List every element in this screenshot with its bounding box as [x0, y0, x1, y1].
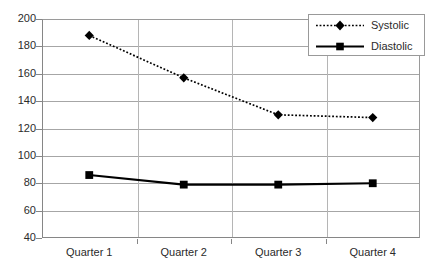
legend-item-diastolic: Diastolic	[309, 36, 426, 57]
y-tick-mark-120	[36, 129, 42, 130]
gridline-x-2	[232, 20, 233, 237]
y-tick-label-60: 60	[4, 205, 36, 216]
y-tick-mark-100	[36, 156, 42, 157]
y-tick-label-120: 120	[4, 123, 36, 134]
y-tick-mark-160	[36, 74, 42, 75]
x-tick-mark-3	[326, 239, 327, 244]
y-tick-label-160: 160	[4, 68, 36, 79]
x-tick-mark-2	[231, 239, 232, 244]
gridline-x-1	[138, 20, 139, 237]
gridline-y-100	[43, 156, 419, 157]
x-tick-label-3: Quarter 3	[231, 246, 326, 258]
gridline-y-160	[43, 74, 419, 75]
legend-label-diastolic: Diastolic	[371, 40, 413, 53]
legend-label-systolic: Systolic	[371, 19, 409, 32]
y-tick-label-200: 200	[4, 13, 36, 24]
x-tick-label-1: Quarter 1	[42, 246, 137, 258]
y-tick-mark-200	[36, 19, 42, 20]
y-tick-label-40: 40	[4, 232, 36, 243]
y-tick-label-140: 140	[4, 95, 36, 106]
gridline-y-120	[43, 129, 419, 130]
y-tick-label-180: 180	[4, 40, 36, 51]
y-tick-mark-140	[36, 101, 42, 102]
y-axis: 200180160140120100806040	[0, 0, 36, 273]
legend-item-systolic: Systolic	[309, 15, 426, 36]
y-tick-label-100: 100	[4, 150, 36, 161]
diamond-marker-icon	[314, 15, 366, 36]
blood-pressure-line-chart: 200180160140120100806040 Quarter 1Quarte…	[0, 0, 433, 273]
x-tick-label-2: Quarter 2	[137, 246, 232, 258]
x-tick-label-4: Quarter 4	[326, 246, 421, 258]
x-tick-mark-1	[137, 239, 138, 244]
gridline-y-60	[43, 211, 419, 212]
y-tick-mark-180	[36, 46, 42, 47]
y-tick-label-80: 80	[4, 177, 36, 188]
chart-legend: Systolic Diastolic	[308, 14, 425, 56]
y-tick-mark-80	[36, 183, 42, 184]
gridline-y-140	[43, 101, 419, 102]
gridline-y-80	[43, 183, 419, 184]
y-tick-mark-60	[36, 211, 42, 212]
square-marker-icon	[314, 36, 366, 57]
y-tick-mark-40	[36, 238, 42, 239]
